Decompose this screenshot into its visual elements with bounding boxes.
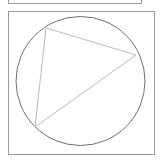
diagram-frame (9, 12, 155, 155)
inscribed-triangle (35, 28, 136, 127)
diagram-canvas (0, 0, 164, 161)
